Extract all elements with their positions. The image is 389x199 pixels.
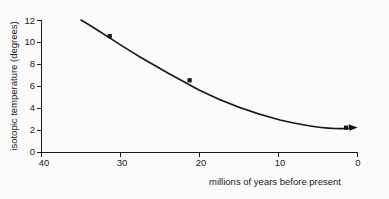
x-tick-label-10: 10 (275, 157, 286, 168)
data-marker-2 (188, 78, 192, 82)
y-axis-title: isotopic temperature (degrees) (8, 21, 19, 150)
data-point-markers (108, 34, 349, 130)
x-tick-label-40: 40 (39, 157, 50, 168)
isotopic-temperature-chart: 0 2 4 6 8 10 12 40 30 20 10 0 isotopic t… (0, 0, 389, 199)
x-tick-label-0: 0 (355, 157, 360, 168)
data-marker-1 (108, 34, 112, 38)
curve-end-arrowhead (349, 124, 358, 131)
data-marker-3 (344, 126, 348, 130)
y-tick-label-8: 8 (30, 58, 35, 69)
y-tick-label-2: 2 (30, 124, 35, 135)
y-tick-label-10: 10 (24, 36, 35, 47)
y-tick-label-12: 12 (24, 15, 35, 26)
x-axis-title: millions of years before present (209, 176, 341, 187)
x-tick-label-30: 30 (117, 157, 128, 168)
y-tick-label-4: 4 (30, 102, 35, 113)
y-axis-ticks (37, 21, 42, 153)
chart-plot-area: 0 2 4 6 8 10 12 40 30 20 10 0 isotopic t… (0, 0, 389, 199)
x-axis-tick-labels: 40 30 20 10 0 (39, 157, 361, 168)
temperature-curve (81, 20, 353, 129)
y-axis-tick-labels: 0 2 4 6 8 10 12 (24, 15, 35, 157)
y-tick-label-0: 0 (30, 146, 35, 157)
x-tick-label-20: 20 (196, 157, 207, 168)
y-tick-label-6: 6 (30, 80, 35, 91)
